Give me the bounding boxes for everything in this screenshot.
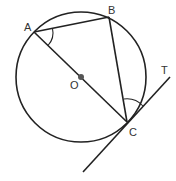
chord-ab — [34, 17, 109, 32]
label-a: A — [24, 21, 32, 33]
circle-theorem-diagram: A B O C T — [0, 0, 176, 181]
label-b: B — [108, 4, 115, 16]
center-point-o — [78, 74, 84, 80]
angle-mark-bac — [48, 29, 53, 46]
label-o: O — [70, 79, 79, 91]
label-c: C — [129, 126, 137, 138]
label-t: T — [161, 64, 168, 76]
